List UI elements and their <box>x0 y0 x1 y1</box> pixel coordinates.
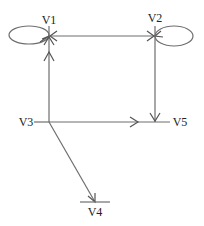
self-loop-v1 <box>9 26 49 44</box>
graph-diagram: V1 V2 V3 V4 V5 <box>0 0 204 226</box>
self-loop-v2 <box>155 26 193 46</box>
node-label-v1: V1 <box>42 13 57 27</box>
arrowhead-v3-v4-icon <box>88 193 95 202</box>
node-label-v2: V2 <box>148 11 163 25</box>
edge-v3-v4 <box>49 122 95 202</box>
node-label-v3: V3 <box>19 115 34 129</box>
node-label-v5: V5 <box>173 115 188 129</box>
node-label-v4: V4 <box>88 205 103 219</box>
